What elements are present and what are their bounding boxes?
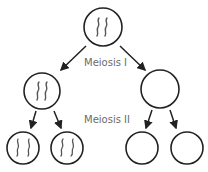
chromosome-pair-icon [37,82,47,100]
cell-gamete-1 [7,132,39,164]
cell-daughter-left [24,73,60,109]
chromosome-pair-icon [97,18,107,36]
cell-parent [84,8,122,46]
label-meiosis-1: Meiosis I [84,57,127,68]
label-meiosis-2: Meiosis II [84,114,130,125]
arrow-meiosis2-3 [146,110,152,128]
arrow-meiosis2-1 [31,111,36,128]
cell-gamete-3 [126,132,158,164]
chromosome-icon [61,139,74,156]
meiosis-diagram [0,0,208,172]
arrow-meiosis2-2 [54,111,61,128]
cell-gamete-2 [51,132,83,164]
chromosome-icon [17,139,30,156]
arrow-meiosis1-left [61,46,86,70]
arrow-meiosis2-4 [170,110,176,128]
cell-daughter-right [141,70,179,108]
cell-gamete-4 [171,132,203,164]
